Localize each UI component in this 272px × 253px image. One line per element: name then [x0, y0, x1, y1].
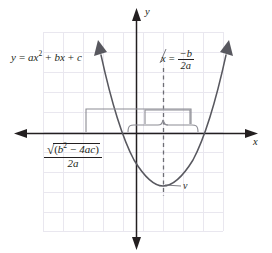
curly-brace-left — [128, 120, 168, 132]
x-axis-label: x — [253, 137, 258, 148]
discriminant-numerator: √(b2−4ac) — [44, 143, 102, 157]
vertex-formula-fraction: −b 2a — [178, 48, 194, 71]
radicand-4ac: 4ac — [79, 143, 95, 155]
equation-term2-var: x — [60, 51, 65, 63]
vertex-formula-lhs: x — [161, 54, 166, 65]
y-axis-label: y — [145, 7, 150, 18]
quadratic-equation-label: y=ax2+bx+c — [11, 52, 82, 63]
vertex-formula-numerator: −b — [178, 48, 194, 59]
radicand-close-paren: ) — [95, 143, 99, 155]
radicand-minus: − — [70, 143, 76, 155]
equation-plus-2: + — [68, 51, 74, 63]
vertex-label: v — [183, 181, 187, 191]
equation-lhs: y — [11, 51, 16, 63]
curve-right-arrow — [220, 40, 233, 56]
y-axis — [132, 8, 141, 250]
radical-group: √(b2−4ac) — [46, 143, 100, 157]
axis-of-symmetry-formula: x= −b 2a — [161, 48, 194, 71]
vertex-formula-denominator: 2a — [178, 59, 194, 71]
radicand: (b2−4ac) — [53, 143, 100, 156]
y-axis-top-arrow — [132, 8, 141, 21]
discriminant-fraction: √(b2−4ac) 2a — [44, 143, 102, 169]
discriminant-formula: √(b2−4ac) 2a — [44, 143, 102, 169]
vertex-formula-equals: = — [169, 54, 175, 65]
radicand-b-exponent: 2 — [63, 141, 67, 150]
y-axis-bottom-arrow — [132, 237, 141, 250]
equation-term3: c — [77, 51, 82, 63]
parabola-figure: y=ax2+bx+c y x x= −b 2a √(b2−4ac) 2a v — [0, 0, 272, 253]
equation-plus-1: + — [45, 51, 51, 63]
axes — [14, 8, 258, 250]
discriminant-denominator: 2a — [44, 157, 102, 170]
curly-brace-right — [163, 120, 198, 132]
figure-canvas — [0, 0, 272, 253]
curve-left-arrow — [94, 40, 107, 56]
equation-term1-exponent: 2 — [39, 49, 43, 58]
equation-equals: = — [19, 51, 25, 63]
x-axis-left-arrow — [14, 129, 27, 138]
